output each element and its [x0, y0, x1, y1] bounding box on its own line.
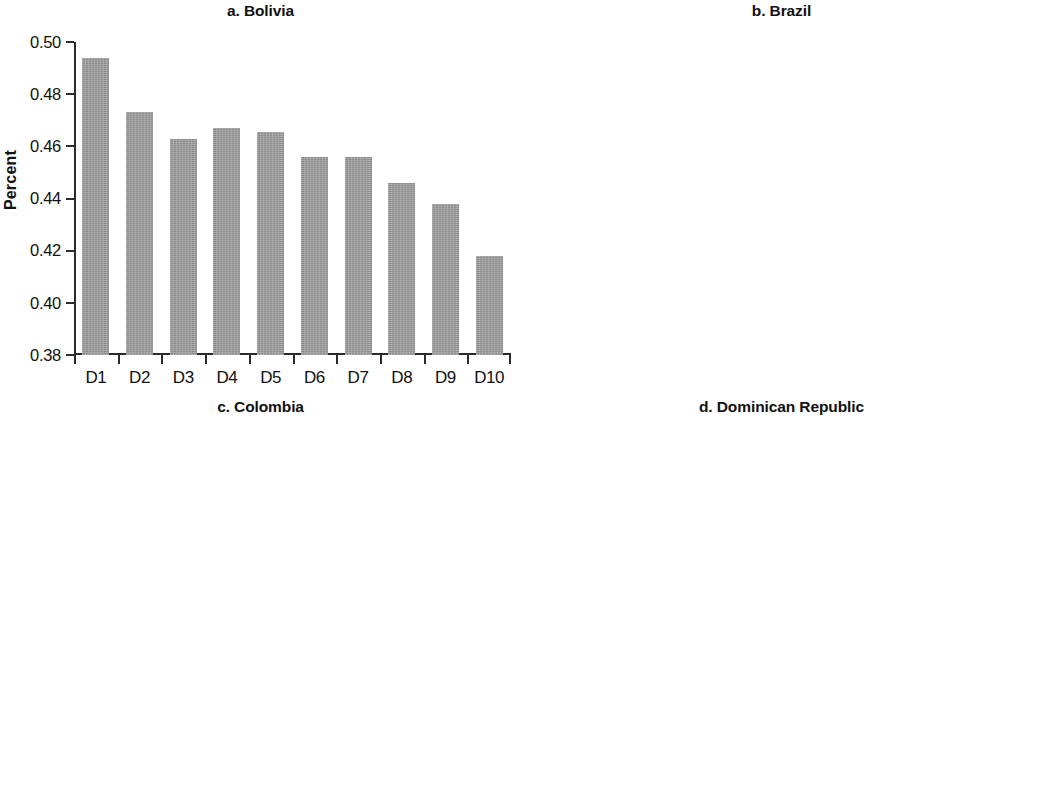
- x-axis-category-label: D7: [348, 368, 369, 388]
- bar: [257, 132, 284, 355]
- x-axis-category-label: D2: [129, 368, 150, 388]
- y-axis-tick-mark: [66, 145, 74, 147]
- y-axis-tick-mark: [66, 93, 74, 95]
- bar: [345, 157, 372, 355]
- bar-series: [74, 42, 511, 355]
- x-axis-tick: [249, 355, 251, 364]
- x-axis-tick: [118, 355, 120, 364]
- x-axis-tick: [509, 355, 511, 364]
- x-axis-category-label: D1: [85, 368, 106, 388]
- bar: [476, 256, 503, 355]
- x-axis-category-label: D5: [260, 368, 281, 388]
- y-axis-tick-label: 0.50: [30, 34, 61, 51]
- y-axis-tick-mark: [66, 302, 74, 304]
- bar: [432, 204, 459, 355]
- bar: [213, 128, 240, 355]
- y-axis-tick-mark: [66, 354, 74, 356]
- x-axis-tick: [205, 355, 207, 364]
- bar: [170, 139, 197, 355]
- x-axis-category-label: D9: [435, 368, 456, 388]
- y-axis-tick-label: 0.38: [30, 347, 61, 364]
- panel-bolivia: a. Bolivia Percent 0.380.400.420.440.460…: [0, 0, 521, 396]
- x-axis-tick: [161, 355, 163, 364]
- x-axis-tick: [467, 355, 469, 364]
- y-axis-tick-label: 0.48: [30, 86, 61, 103]
- x-axis-category-label: D3: [173, 368, 194, 388]
- panel-dominican-republic: d. Dominican Republic Percent 00.020.040…: [521, 396, 1042, 792]
- y-axis-tick-label: 0.40: [30, 295, 61, 312]
- y-axis-tick-mark: [66, 250, 74, 252]
- plot-area: 0.380.400.420.440.460.480.50: [74, 42, 511, 355]
- y-axis-tick-mark: [66, 198, 74, 200]
- x-axis-category-label: D8: [391, 368, 412, 388]
- x-axis-tick: [380, 355, 382, 364]
- x-axis-tick: [293, 355, 295, 364]
- y-axis-label: Percent: [2, 150, 20, 210]
- y-axis-tick-label: 0.42: [30, 242, 61, 259]
- x-axis-tick: [74, 355, 76, 364]
- x-axis-category-label: D6: [304, 368, 325, 388]
- panel-title: b. Brazil: [521, 2, 1042, 20]
- x-axis-category-label: D10: [474, 368, 504, 388]
- bar: [301, 157, 328, 355]
- x-axis-category-label: D4: [216, 368, 237, 388]
- panel-title: d. Dominican Republic: [521, 398, 1042, 416]
- bar: [82, 58, 109, 355]
- bar: [126, 112, 153, 355]
- bar: [388, 183, 415, 355]
- y-axis-tick-label: 0.46: [30, 138, 61, 155]
- panel-title: a. Bolivia: [0, 2, 521, 20]
- panel-brazil: b. Brazil Percent 00.050.100.150.200.250…: [521, 0, 1042, 396]
- y-axis-tick-mark: [66, 41, 74, 43]
- x-axis-tick: [424, 355, 426, 364]
- y-axis-tick-label: 0.44: [30, 190, 61, 207]
- panel-title: c. Colombia: [0, 398, 521, 416]
- x-axis-tick: [336, 355, 338, 364]
- figure-four-panel-bar-charts: a. Bolivia Percent 0.380.400.420.440.460…: [0, 0, 1042, 792]
- panel-colombia: c. Colombia Percent 0.100.110.120.130.14…: [0, 396, 521, 792]
